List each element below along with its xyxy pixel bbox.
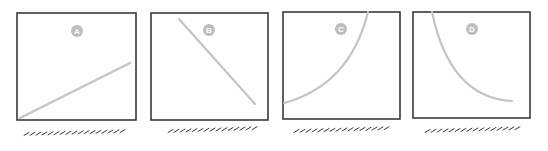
badge-letter: C <box>338 25 344 34</box>
caption-hatch <box>294 127 389 133</box>
panel-b: B <box>151 13 268 120</box>
caption-hatch <box>168 127 257 133</box>
badge-letter: D <box>469 25 475 34</box>
caption-hatch <box>425 127 520 133</box>
panel-c: C <box>283 12 400 119</box>
diagram-canvas: ABCD <box>0 0 548 151</box>
graph-shapes-diagram: ABCD <box>0 0 548 151</box>
badge-letter: A <box>74 27 80 36</box>
label-badge: D <box>466 23 478 35</box>
label-badge: A <box>71 25 83 37</box>
caption-hatch <box>24 130 125 136</box>
label-badge: C <box>335 23 347 35</box>
panel-a: A <box>17 13 136 120</box>
label-badge: B <box>203 24 215 36</box>
panel-d: D <box>413 12 530 118</box>
badge-letter: B <box>206 26 212 35</box>
